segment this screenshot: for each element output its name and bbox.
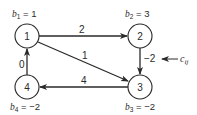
- edge-4-1: 0: [19, 49, 27, 75]
- edge-1-2-cost: 2: [79, 24, 85, 35]
- node-4: 4: [15, 75, 39, 99]
- svg-text:1: 1: [24, 31, 30, 42]
- edge-2-3: −2: [140, 48, 156, 74]
- node-2: 2: [128, 24, 152, 48]
- cost-annotation-label: cij: [180, 53, 188, 66]
- edge-2-3-cost: −2: [144, 53, 156, 64]
- supply-label-4: b4 = −2: [10, 101, 40, 113]
- supply-label-1: b1 = 1: [12, 8, 37, 20]
- edge-1-2: 2: [39, 24, 127, 36]
- edge-3-4-cost: 4: [81, 75, 87, 86]
- svg-text:3: 3: [137, 82, 143, 93]
- node-3: 3: [128, 75, 152, 99]
- cost-annotation: cij: [162, 53, 188, 66]
- svg-text:2: 2: [137, 31, 143, 42]
- network-diagram: 2 1 −2 4 0 cij 1 2 3 4 b1 = 1: [0, 0, 197, 115]
- node-1: 1: [15, 24, 39, 48]
- edge-1-3-cost: 1: [82, 50, 88, 61]
- supply-label-2: b2 = 3: [125, 8, 150, 20]
- edge-4-1-cost: 0: [19, 59, 25, 70]
- edge-3-4: 4: [40, 75, 128, 87]
- svg-text:4: 4: [24, 82, 30, 93]
- supply-label-3: b3 = −2: [125, 101, 155, 113]
